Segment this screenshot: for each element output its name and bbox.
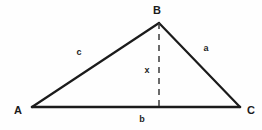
vertex-label-b: B	[153, 5, 161, 16]
triangle-diagram: A B C c a b x	[0, 0, 262, 130]
side-label-a: a	[203, 44, 208, 53]
side-label-c: c	[76, 48, 81, 57]
vertex-label-c: C	[247, 105, 255, 116]
triangle-figure	[0, 0, 262, 130]
side-label-b: b	[139, 115, 145, 124]
side-a-line	[159, 23, 240, 107]
altitude-label-x: x	[144, 66, 149, 75]
side-c-line	[32, 23, 159, 107]
vertex-label-a: A	[14, 105, 22, 116]
